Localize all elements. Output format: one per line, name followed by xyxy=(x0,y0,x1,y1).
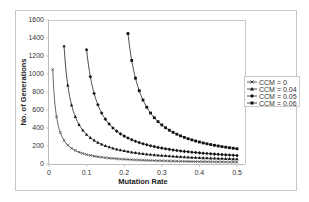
square-marker-icon xyxy=(251,102,254,105)
legend: CCM = 0 CCM = 0.04 CCM = 0.05 CCM = 0.06 xyxy=(245,77,300,107)
data-point xyxy=(160,124,163,127)
data-point xyxy=(145,106,148,109)
data-point xyxy=(157,120,160,123)
x-tick-label: 0.4 xyxy=(195,169,205,176)
data-point xyxy=(172,131,175,134)
data-point xyxy=(187,137,190,140)
y-tick-label: 1400 xyxy=(28,34,44,41)
data-point xyxy=(217,145,220,148)
data-point xyxy=(202,142,205,145)
data-point xyxy=(224,146,227,149)
x-tick-label: 0.3 xyxy=(157,169,167,176)
y-tick-label: 0 xyxy=(40,160,44,167)
legend-label: CCM = 0.06 xyxy=(259,100,297,107)
y-tick-label: 800 xyxy=(32,88,44,95)
x-tick-label: 0 xyxy=(47,169,51,176)
data-point xyxy=(213,144,216,147)
y-tick-label: 600 xyxy=(32,106,44,113)
data-point xyxy=(232,147,235,150)
data-point xyxy=(149,112,152,115)
legend-label: CCM = 0.04 xyxy=(259,86,297,93)
data-point xyxy=(142,99,145,102)
data-point xyxy=(168,129,171,132)
data-point xyxy=(194,140,197,143)
data-point xyxy=(228,146,231,149)
y-tick-label: 1000 xyxy=(28,70,44,77)
data-point xyxy=(164,126,167,129)
data-point xyxy=(190,139,193,142)
data-point xyxy=(206,142,209,145)
data-point xyxy=(153,116,156,119)
data-point xyxy=(130,59,133,62)
x-tick-label: 0.2 xyxy=(119,169,129,176)
chart: 02004006008001000120014001600 00.10.20.3… xyxy=(0,0,309,202)
data-point xyxy=(179,134,182,137)
data-point xyxy=(198,141,201,144)
data-point xyxy=(236,147,239,150)
legend-label: CCM = 0 xyxy=(259,79,287,86)
y-tick-label: 1200 xyxy=(28,52,44,59)
y-tick-label: 1600 xyxy=(28,16,44,23)
data-point xyxy=(138,89,141,92)
data-point xyxy=(127,32,130,35)
data-point xyxy=(175,133,178,136)
x-axis-title: Mutation Rate xyxy=(118,177,168,186)
data-point xyxy=(221,145,224,148)
data-point xyxy=(183,136,186,139)
data-point xyxy=(209,143,212,146)
data-point xyxy=(134,77,137,80)
y-tick-label: 400 xyxy=(32,124,44,131)
x-tick-label: 0.1 xyxy=(82,169,92,176)
legend-label: CCM = 0.05 xyxy=(259,93,297,100)
y-tick-label: 200 xyxy=(32,142,44,149)
x-tick-label: 0.5 xyxy=(232,169,242,176)
y-axis-title: No. of Generations xyxy=(19,58,28,125)
